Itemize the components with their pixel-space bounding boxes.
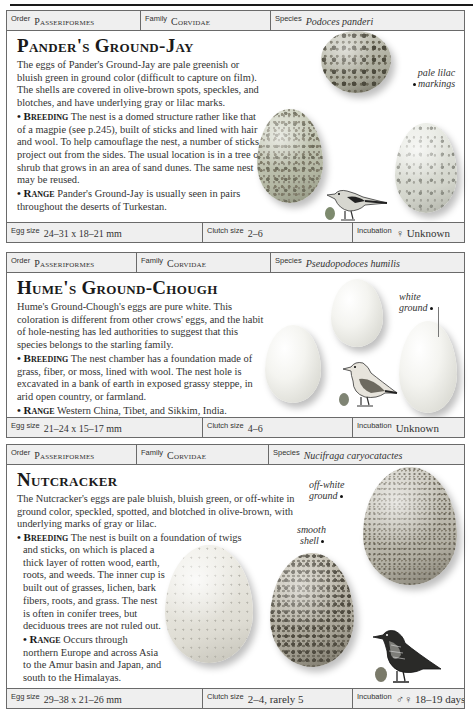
description-text: Hume's Ground-Chough's eggs are pure whi…	[17, 301, 269, 352]
incubation-value: ♂♀ 18–19 days	[396, 693, 464, 705]
clutch-size-label: Clutch size	[207, 223, 244, 235]
breeding-heading: • Breeding	[17, 110, 68, 122]
incubation-cell: Incubation Unknown	[353, 418, 464, 437]
entry-panders-ground-jay: Order Passeriformes Family Corvidae Spec…	[6, 10, 465, 243]
annotation-line: ground	[399, 302, 435, 313]
annotation-line: pale lilac	[411, 67, 455, 78]
egg-stats-footer: Egg size 21–24 x 15–17 mm Clutch size 4–…	[7, 417, 464, 437]
annotation-pale-lilac: pale lilac markings	[411, 67, 455, 89]
entry-humes-ground-chough: Order Passeriformes Family Corvidae Spec…	[6, 252, 465, 438]
range-heading: • Range	[17, 404, 55, 416]
egg-size-cell: Egg size 24–31 x 18–21 mm	[7, 223, 203, 242]
range-text: Western China, Tibet, and Sikkim, India.	[55, 405, 227, 416]
species-value: Nucifraga caryocatactes	[304, 450, 403, 461]
egg-size-value: 21–24 x 15–17 mm	[44, 423, 122, 434]
clutch-size-value: 2–4, rarely 5	[248, 693, 304, 705]
clutch-size-cell: Clutch size 4–6	[203, 418, 353, 437]
annotation-text: markings	[418, 78, 455, 89]
bird-icon-ground-chough	[341, 359, 399, 411]
incubation-label: Incubation	[357, 223, 392, 235]
egg-size-label: Egg size	[11, 223, 40, 235]
order-cell: Order Passeriformes	[7, 253, 137, 272]
order-value: Passeriformes	[34, 16, 94, 27]
order-label: Order	[11, 445, 30, 457]
annotation-smooth-shell: smooth shell	[297, 524, 326, 546]
breeding-paragraph: • Breeding The nest is a domed structure…	[17, 110, 262, 187]
species-label: Species	[275, 253, 302, 265]
annotation-line: ground	[309, 490, 345, 501]
species-title: Nutcracker	[17, 469, 118, 491]
family-value: Corvidae	[171, 16, 210, 27]
description-text: The eggs of Pander's Ground-Jay are pale…	[17, 59, 262, 110]
leader-dot	[413, 83, 416, 86]
leader-dot	[430, 307, 433, 310]
annotation-line: white	[399, 291, 435, 302]
clutch-size-cell: Clutch size 2–6	[203, 223, 353, 242]
species-description: The eggs of Pander's Ground-Jay are pale…	[17, 59, 262, 213]
family-value: Corvidae	[167, 450, 206, 461]
species-description-bottom: and sticks, on which is placed a thick l…	[23, 544, 165, 685]
species-cell: Species Nucifraga caryocatactes	[269, 445, 464, 464]
family-label: Family	[145, 11, 167, 23]
classification-header: Order Passeriformes Family Corvidae Spec…	[7, 445, 464, 465]
egg-size-cell: Egg size 21–24 x 15–17 mm	[7, 418, 203, 437]
order-label: Order	[11, 11, 30, 23]
egg-photo-left	[165, 545, 253, 663]
annotation-line: shell	[297, 535, 326, 546]
egg-photo-right	[363, 467, 457, 585]
range-heading: • Range	[17, 187, 55, 199]
annotation-line: smooth	[297, 524, 326, 535]
egg-photo-right	[399, 321, 457, 413]
egg-photo-left	[265, 325, 321, 403]
egg-size-value: 29–38 x 21–26 mm	[44, 694, 122, 705]
species-cell: Species Pseudopodoces humilis	[271, 253, 464, 272]
leader-dot	[340, 495, 343, 498]
annotation-off-white-ground: off-white ground	[309, 479, 345, 501]
incubation-value: ♀ Unknown	[396, 227, 450, 239]
egg-size-value: 24–31 x 18–21 mm	[44, 228, 122, 239]
clutch-size-label: Clutch size	[207, 689, 244, 701]
annotation-line: off-white	[309, 479, 345, 490]
annotation-text: ground	[309, 490, 338, 501]
family-value: Corvidae	[167, 258, 206, 269]
page-top-rule	[10, 4, 473, 6]
order-label: Order	[11, 253, 30, 265]
clutch-size-value: 2–6	[248, 228, 263, 239]
incubation-value: Unknown	[396, 422, 439, 434]
egg-size-label: Egg size	[11, 418, 40, 430]
family-cell: Family Corvidae	[137, 253, 271, 272]
annotation-leader-line	[438, 307, 439, 337]
species-value: Pseudopodoces humilis	[306, 258, 400, 269]
description-text: The Nutcracker's eggs are pale bluish, b…	[17, 493, 297, 531]
incubation-label: Incubation	[357, 418, 392, 430]
species-title: Pander's Ground-Jay	[17, 35, 194, 57]
family-cell: Family Corvidae	[141, 11, 271, 30]
leader-dot	[321, 540, 324, 543]
breeding-heading: • Breeding	[17, 531, 68, 543]
clutch-size-cell: Clutch size 2–4, rarely 5	[203, 689, 353, 708]
family-cell: Family Corvidae	[137, 445, 269, 464]
bird-icon-ground-jay	[325, 185, 393, 225]
species-title: Hume's Ground-Chough	[17, 277, 218, 299]
order-value: Passeriformes	[34, 258, 94, 269]
entry-nutcracker: Order Passeriformes Family Corvidae Spec…	[6, 444, 465, 709]
incubation-label: Incubation	[357, 689, 392, 701]
clutch-size-value: 4–6	[248, 423, 263, 434]
range-paragraph: • Range Western China, Tibet, and Sikkim…	[17, 404, 269, 418]
breeding-first-line: • Breeding The nest is built on a founda…	[17, 531, 297, 545]
egg-photo-top	[321, 31, 391, 93]
egg-stats-footer: Egg size 24–31 x 18–21 mm Clutch size 2–…	[7, 222, 464, 242]
annotation-text: shell	[300, 535, 319, 546]
annotation-white-ground: white ground	[399, 291, 435, 313]
egg-stats-footer: Egg size 29–38 x 21–26 mm Clutch size 2–…	[7, 688, 464, 708]
order-cell: Order Passeriformes	[7, 11, 141, 30]
egg-size-cell: Egg size 29–38 x 21–26 mm	[7, 689, 203, 708]
species-value: Podoces panderi	[306, 16, 374, 27]
egg-photo-middle	[270, 553, 354, 667]
species-label: Species	[273, 445, 300, 457]
incubation-cell: Incubation ♂♀ 18–19 days	[353, 689, 464, 708]
range-paragraph: • Range Occurs through northern Europe a…	[23, 633, 165, 685]
order-cell: Order Passeriformes	[7, 445, 137, 464]
family-label: Family	[141, 253, 163, 265]
egg-photo-right	[395, 123, 457, 213]
